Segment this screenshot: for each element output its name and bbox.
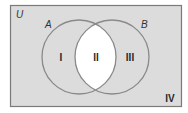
universe-label: U (16, 9, 24, 20)
region-ii-label: II (93, 52, 99, 63)
venn-diagram: U A B I II III IV (0, 0, 188, 113)
set-a-label: A (44, 19, 52, 30)
region-iv-label: IV (165, 93, 175, 104)
set-b-label: B (141, 19, 148, 30)
region-iii-label: III (126, 52, 135, 63)
region-i-label: I (60, 52, 63, 63)
